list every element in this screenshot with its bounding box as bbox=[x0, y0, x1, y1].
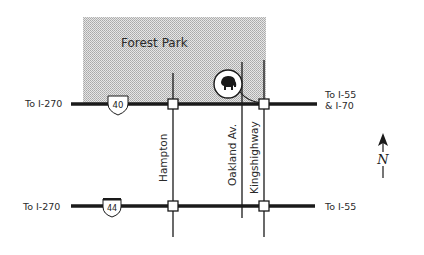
interchange-kingshighway-44 bbox=[259, 201, 269, 211]
hampton-street-label: Hampton bbox=[157, 134, 169, 182]
interchange-kingshighway-40 bbox=[259, 99, 269, 109]
bottom-right-destination-label: To I-55 bbox=[325, 201, 356, 212]
interstate-44-shield-icon: 44 bbox=[103, 198, 121, 217]
street-map: 40 44 N Forest Park To I-270 To I-55 & I… bbox=[0, 0, 424, 255]
north-arrow-icon: N bbox=[376, 133, 389, 178]
interstate-40-shield-icon: 40 bbox=[108, 96, 128, 115]
svg-text:N: N bbox=[376, 152, 389, 167]
top-left-destination-label: To I-270 bbox=[25, 98, 62, 109]
bottom-left-destination-label: To I-270 bbox=[23, 201, 60, 212]
top-right-destination-label-2: & I-70 bbox=[325, 100, 354, 111]
forest-park-label: Forest Park bbox=[121, 36, 188, 50]
interchange-hampton-44 bbox=[168, 201, 178, 211]
svg-text:44: 44 bbox=[107, 204, 117, 213]
oakland-street-label: Oakland Av. bbox=[226, 124, 238, 186]
elephant-zoo-icon bbox=[214, 70, 242, 98]
kingshighway-street-label: Kingshighway bbox=[248, 121, 260, 194]
interchange-hampton-40 bbox=[168, 99, 178, 109]
top-right-destination-label-1: To I-55 bbox=[325, 89, 356, 100]
svg-text:40: 40 bbox=[113, 100, 124, 110]
